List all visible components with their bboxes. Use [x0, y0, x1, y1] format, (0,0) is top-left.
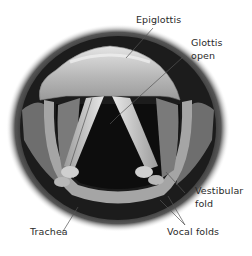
label-vestibular-fold-line2: fold: [195, 198, 213, 210]
label-epiglottis: Epiglottis: [136, 14, 181, 26]
label-glottis-open-line2: open: [191, 50, 215, 62]
label-vocal-folds: Vocal folds: [167, 226, 219, 238]
label-vestibular-fold-line1: Vestibular: [195, 185, 243, 197]
label-glottis-open-line1: Glottis: [191, 37, 223, 49]
larynx-diagram: Epiglottis Glottis open Vestibular fold …: [0, 0, 252, 256]
label-trachea: Trachea: [30, 226, 68, 238]
left-arytenoid: [61, 166, 79, 178]
right-arytenoid: [135, 166, 153, 178]
